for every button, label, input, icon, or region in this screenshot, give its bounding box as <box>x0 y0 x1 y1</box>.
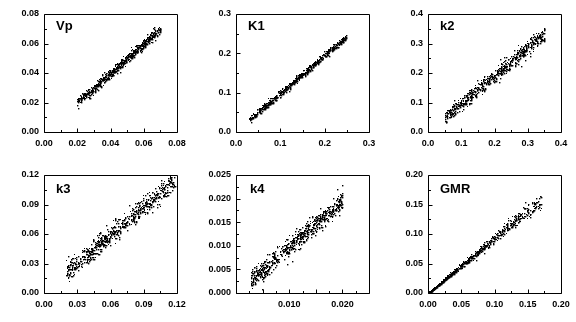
scatter-panel-figure: Vp K1 k2 k3 k4 GMR <box>0 0 576 322</box>
panel-k3-canvas <box>0 161 192 322</box>
panel-vp-canvas <box>0 0 192 161</box>
panel-k2-canvas <box>384 0 576 161</box>
panel-k4-canvas <box>192 161 384 322</box>
panel-vp-title: Vp <box>56 18 73 33</box>
panel-gmr-title: GMR <box>440 181 470 196</box>
panel-vp: Vp <box>0 0 192 161</box>
panel-k3: k3 <box>0 161 192 322</box>
panel-k1-canvas <box>192 0 384 161</box>
panel-k1-title: K1 <box>248 18 265 33</box>
panel-gmr: GMR <box>384 161 576 322</box>
panel-k2: k2 <box>384 0 576 161</box>
panel-gmr-canvas <box>384 161 576 322</box>
panel-k3-title: k3 <box>56 181 70 196</box>
panel-k2-title: k2 <box>440 18 454 33</box>
panel-k4: k4 <box>192 161 384 322</box>
panel-k1: K1 <box>192 0 384 161</box>
panel-k4-title: k4 <box>250 181 264 196</box>
